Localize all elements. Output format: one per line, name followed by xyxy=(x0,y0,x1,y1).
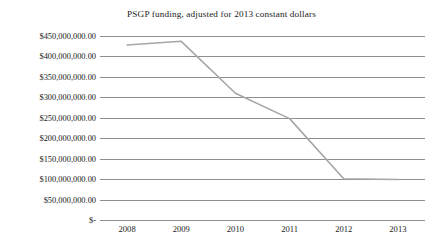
x-tick-label: 2011 xyxy=(281,224,298,234)
data-series-layer xyxy=(100,36,425,220)
y-tick-label: $50,000,000.00 xyxy=(0,195,96,204)
x-axis: 200820092010201120122013 xyxy=(100,224,425,242)
x-tick-label: 2008 xyxy=(118,224,135,234)
y-tick-label: $150,000,000.00 xyxy=(0,154,96,163)
y-tick-label: $400,000,000.00 xyxy=(0,52,96,61)
x-tick-label: 2009 xyxy=(173,224,190,234)
y-tick-label: $100,000,000.00 xyxy=(0,175,96,184)
y-axis: $450,000,000.00$400,000,000.00$350,000,0… xyxy=(0,0,96,247)
x-tick-label: 2013 xyxy=(389,224,406,234)
chart-container: PSGP funding, adjusted for 2013 constant… xyxy=(0,0,443,247)
y-tick-label: $450,000,000.00 xyxy=(0,32,96,41)
y-tick-label: $250,000,000.00 xyxy=(0,113,96,122)
y-tick-label: $- xyxy=(0,216,96,225)
y-tick-label: $350,000,000.00 xyxy=(0,72,96,81)
line-series-psgp-funding xyxy=(127,41,398,179)
x-tick-label: 2012 xyxy=(335,224,352,234)
y-tick-label: $300,000,000.00 xyxy=(0,93,96,102)
y-tick-label: $200,000,000.00 xyxy=(0,134,96,143)
gridline xyxy=(100,220,425,221)
x-tick-label: 2010 xyxy=(227,224,244,234)
